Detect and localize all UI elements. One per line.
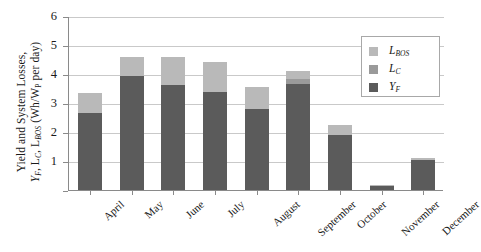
bar-stack bbox=[203, 62, 227, 190]
legend-swatch bbox=[369, 47, 378, 56]
bar-segment bbox=[245, 87, 269, 109]
bar-segment bbox=[286, 71, 310, 79]
legend-item: LBOS bbox=[369, 42, 439, 60]
bar-segment bbox=[245, 109, 269, 190]
bar-stack bbox=[411, 158, 435, 190]
y-tick-label: 4 bbox=[33, 67, 57, 82]
bar-segment bbox=[328, 135, 352, 190]
x-axis-tick-labels: AprilMayJuneJulyAugustSeptemberOctoberNo… bbox=[68, 194, 443, 252]
bar-segment bbox=[411, 160, 435, 190]
bar-segment bbox=[203, 92, 227, 190]
bar-segment bbox=[120, 57, 144, 76]
legend-swatch bbox=[369, 83, 378, 92]
bar-stack bbox=[120, 57, 144, 190]
legend-label: LBOS bbox=[389, 44, 409, 58]
legend-item: YF bbox=[369, 78, 439, 96]
y-tick-label: 3 bbox=[33, 96, 57, 111]
bar-segment bbox=[78, 113, 102, 190]
bar-segment bbox=[120, 76, 144, 190]
x-tick-label: November bbox=[398, 198, 441, 238]
y-tick-label: 6 bbox=[33, 9, 57, 24]
y-axis-sep2: , L bbox=[29, 140, 41, 153]
legend-label: YF bbox=[389, 80, 400, 94]
bar-segment bbox=[161, 57, 185, 85]
y-axis-symbol-yf: Y bbox=[29, 176, 41, 183]
bar-segment bbox=[286, 84, 310, 190]
bar-stack bbox=[370, 185, 394, 190]
bar-stack bbox=[328, 125, 352, 190]
legend-item: LC bbox=[369, 60, 439, 78]
x-tick-label: August bbox=[270, 198, 302, 228]
x-tick-label: June bbox=[183, 198, 206, 220]
y-axis-units-sub: P bbox=[34, 84, 43, 88]
x-tick-label: July bbox=[225, 198, 247, 219]
x-tick-label: October bbox=[354, 198, 388, 231]
bar-segment bbox=[203, 62, 227, 92]
y-tick-label: 1 bbox=[33, 154, 57, 169]
y-tick-label: 2 bbox=[33, 125, 57, 140]
bar-segment bbox=[370, 186, 394, 190]
x-tick-label: May bbox=[142, 198, 165, 220]
x-tick-label: April bbox=[101, 198, 126, 222]
x-tick-label: September bbox=[315, 198, 358, 238]
bar-stack bbox=[245, 87, 269, 190]
chart-legend: LBOSLCYF bbox=[361, 36, 440, 97]
bar-stack bbox=[161, 57, 185, 190]
y-axis-title-line1: Yield and System Losses, bbox=[14, 42, 28, 183]
bar-stack bbox=[286, 71, 310, 190]
bar-segment bbox=[78, 93, 102, 113]
y-axis-symbol-yf-sub: F bbox=[34, 171, 43, 176]
legend-label: LC bbox=[389, 62, 400, 76]
legend-swatch bbox=[369, 65, 378, 74]
x-tick-label: December bbox=[440, 198, 481, 237]
y-tick-label: 5 bbox=[33, 38, 57, 53]
bar-segment bbox=[328, 125, 352, 135]
bar-segment bbox=[161, 85, 185, 190]
bar-stack bbox=[78, 93, 102, 190]
